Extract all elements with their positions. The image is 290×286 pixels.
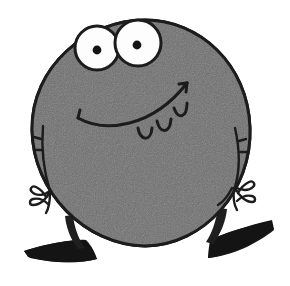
right-eye: [115, 20, 161, 66]
monster-illustration: [0, 0, 290, 286]
left-pupil: [93, 46, 102, 55]
left-hand: [30, 186, 50, 213]
left-foot: [24, 240, 97, 263]
illustration-canvas: A hand-drawn cartoon creature with a lar…: [0, 0, 290, 286]
right-pupil: [133, 41, 142, 50]
left-eye: [75, 26, 119, 70]
